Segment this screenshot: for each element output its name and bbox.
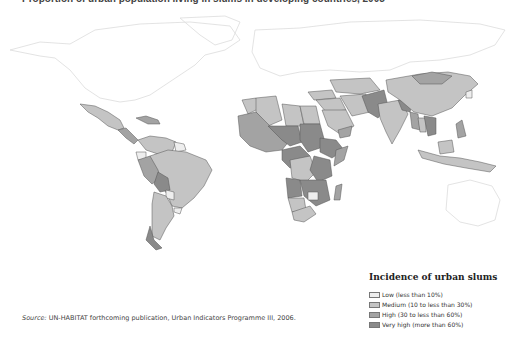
mexico (80, 104, 124, 130)
legend-swatch-low (369, 292, 380, 298)
central-america (118, 128, 138, 144)
uruguay (174, 208, 182, 214)
source-prefix: Source: (22, 314, 47, 322)
madagascar (334, 184, 342, 200)
borneo (438, 140, 454, 154)
source-note: Source: UN-HABITAT forthcoming publicati… (22, 314, 296, 322)
map-legend: Incidence of urban slums Low (less than … (369, 272, 509, 330)
source-text: UN-HABITAT forthcoming publication, Urba… (47, 314, 296, 322)
world-map (0, 0, 509, 260)
eurasia-north-outline (252, 20, 505, 76)
legend-swatch-very-high (369, 322, 380, 328)
guianas (174, 142, 186, 152)
legend-label-medium: Medium (10 to less than 30%) (382, 301, 472, 308)
legend-swatch-high (369, 312, 380, 318)
east-africa (310, 156, 332, 182)
caribbean (136, 116, 160, 124)
australia-outline (446, 180, 500, 226)
indonesia (418, 150, 496, 172)
legend-item-low: Low (less than 10%) (369, 290, 509, 299)
legend-label-very-high: Very high (more than 60%) (382, 321, 463, 328)
legend-item-high: High (30 to less than 60%) (369, 310, 509, 319)
legend-item-medium: Medium (10 to less than 30%) (369, 300, 509, 309)
legend-title: Incidence of urban slums (369, 272, 509, 282)
indochina (424, 116, 436, 136)
angola (286, 178, 302, 198)
legend-label-low: Low (less than 10%) (382, 291, 443, 298)
philippines (456, 120, 466, 138)
greenland-outline (180, 16, 240, 45)
countries (80, 72, 496, 250)
zimbabwe (308, 192, 318, 200)
central-asia (330, 78, 380, 94)
legend-label-high: High (30 to less than 60%) (382, 311, 462, 318)
legend-swatch-medium (369, 302, 380, 308)
legend-item-very-high: Very high (more than 60%) (369, 320, 509, 329)
north-america-outline (10, 22, 240, 102)
